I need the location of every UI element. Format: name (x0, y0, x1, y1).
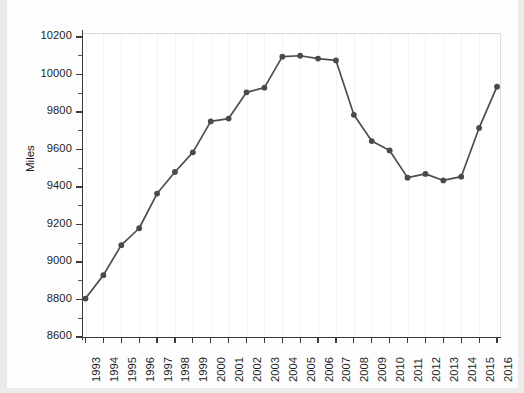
x-tick-2001 (228, 337, 229, 343)
x-tick-label-1997: 1997 (162, 357, 174, 382)
x-tick-2009 (371, 337, 372, 343)
gridline-ghost (282, 34, 283, 336)
x-tick-label-2004: 2004 (287, 357, 299, 382)
x-tick-label-1999: 1999 (197, 357, 209, 382)
gridline-ghost (103, 34, 104, 336)
page-edge-bottom (0, 388, 524, 393)
y-tick-minor (78, 280, 82, 281)
x-tick-label-2010: 2010 (394, 357, 406, 382)
x-tick-2006 (317, 337, 318, 343)
y-tick-10200 (76, 36, 82, 37)
gridline-ghost (139, 34, 140, 336)
x-tick-label-1993: 1993 (90, 357, 102, 382)
x-tick-2003 (264, 337, 265, 343)
x-tick-2010 (389, 337, 390, 343)
x-tick-label-2013: 2013 (448, 357, 460, 382)
gridline-ghost (211, 34, 212, 336)
page-edge-left (0, 0, 7, 393)
x-tick-2005 (300, 337, 301, 343)
x-tick-label-2016: 2016 (502, 357, 514, 382)
gridline-ghost (157, 34, 158, 336)
plot-frame-right (500, 33, 501, 337)
gridline-ghost (193, 34, 194, 336)
x-tick-label-2009: 2009 (376, 357, 388, 382)
x-tick-label-1995: 1995 (126, 357, 138, 382)
y-tick-9800 (76, 111, 82, 112)
y-tick-minor (78, 243, 82, 244)
y-tick-label-10200: 10200 (40, 29, 72, 41)
y-axis-line (82, 30, 83, 340)
y-tick-label-9400: 9400 (47, 179, 72, 191)
x-tick-label-2006: 2006 (323, 357, 335, 382)
x-tick-label-2015: 2015 (484, 357, 496, 382)
gridline-ghost (425, 34, 426, 336)
y-axis-title: Miles (24, 145, 36, 172)
chart-figure: 86008800900092009400960098001000010200 1… (0, 0, 524, 393)
x-tick-2004 (282, 337, 283, 343)
x-tick-label-1996: 1996 (144, 357, 156, 382)
gridline-ghost (229, 34, 230, 336)
gridline-ghost (86, 34, 87, 336)
x-tick-label-2000: 2000 (215, 357, 227, 382)
gridline-ghost (264, 34, 265, 336)
x-tick-2014 (461, 337, 462, 343)
y-tick-8600 (76, 336, 82, 337)
x-tick-label-2001: 2001 (233, 357, 245, 382)
x-tick-2000 (210, 337, 211, 343)
gridline-ghost (354, 34, 355, 336)
x-tick-2015 (479, 337, 480, 343)
y-tick-minor (78, 93, 82, 94)
x-axis-line (80, 337, 501, 338)
page-edge-right (518, 0, 524, 393)
gridline-ghost (175, 34, 176, 336)
x-tick-1994 (103, 337, 104, 343)
y-tick-label-10000: 10000 (40, 67, 72, 79)
y-tick-label-9200: 9200 (47, 217, 72, 229)
x-tick-label-2012: 2012 (430, 357, 442, 382)
x-tick-label-2007: 2007 (340, 357, 352, 382)
y-tick-9000 (76, 261, 82, 262)
x-tick-2008 (353, 337, 354, 343)
y-tick-label-9800: 9800 (47, 104, 72, 116)
x-tick-2013 (443, 337, 444, 343)
y-tick-label-9600: 9600 (47, 142, 72, 154)
x-tick-1995 (121, 337, 122, 343)
x-tick-label-1994: 1994 (108, 357, 120, 382)
y-tick-label-8800: 8800 (47, 292, 72, 304)
gridline-ghost (479, 34, 480, 336)
x-tick-1997 (156, 337, 157, 343)
gridline-ghost (336, 34, 337, 336)
x-tick-1996 (139, 337, 140, 343)
x-tick-label-2014: 2014 (466, 357, 478, 382)
gridline-ghost (318, 34, 319, 336)
x-tick-label-1998: 1998 (179, 357, 191, 382)
y-tick-minor (78, 318, 82, 319)
gridline-ghost (300, 34, 301, 336)
gridline-ghost (497, 34, 498, 336)
y-tick-minor (78, 168, 82, 169)
y-tick-minor (78, 205, 82, 206)
gridline-ghost (390, 34, 391, 336)
y-tick-9600 (76, 149, 82, 150)
y-tick-minor (78, 130, 82, 131)
gridline-ghost (372, 34, 373, 336)
y-tick-minor (78, 55, 82, 56)
x-tick-label-2005: 2005 (305, 357, 317, 382)
plot-frame-top (82, 33, 501, 34)
x-tick-label-2008: 2008 (358, 357, 370, 382)
gridline-ghost (247, 34, 248, 336)
y-tick-label-9000: 9000 (47, 254, 72, 266)
x-tick-2016 (496, 337, 497, 343)
x-tick-label-2003: 2003 (269, 357, 281, 382)
x-tick-2007 (335, 337, 336, 343)
y-tick-label-8600: 8600 (47, 329, 72, 341)
x-tick-label-2011: 2011 (412, 358, 424, 382)
gridline-ghost (461, 34, 462, 336)
x-tick-1998 (174, 337, 175, 343)
y-tick-10000 (76, 74, 82, 75)
gridline-ghost (121, 34, 122, 336)
x-tick-1993 (85, 337, 86, 343)
y-tick-9200 (76, 224, 82, 225)
plot-area (82, 33, 501, 337)
x-tick-label-2002: 2002 (251, 357, 263, 382)
